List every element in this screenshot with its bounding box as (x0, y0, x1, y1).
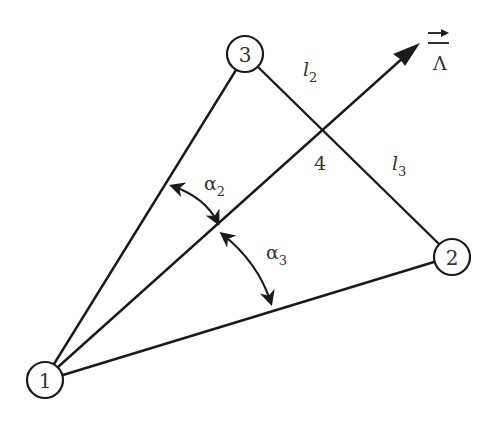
alpha3-main: α (266, 241, 279, 263)
lambda-vector (58, 43, 420, 367)
edge-1-2 (63, 262, 434, 375)
vector-label: Λ (428, 29, 449, 74)
angle-label-alpha3: α3 (266, 241, 287, 268)
l3-sub: 3 (398, 164, 406, 179)
alpha2-sub: 2 (217, 184, 225, 199)
node-3-label: 3 (239, 43, 252, 67)
edge-1-3 (54, 70, 236, 364)
node-2: 2 (434, 239, 470, 275)
segment-label-l3: l3 (392, 152, 406, 179)
lambda-symbol: Λ (432, 52, 447, 74)
intersection-label: 4 (314, 152, 326, 174)
l2-sub: 2 (309, 70, 317, 85)
alpha2-main: α (204, 172, 217, 194)
overarrow-icon (428, 29, 449, 43)
segment-label-l2: l2 (303, 58, 317, 85)
node-3: 3 (227, 36, 263, 72)
node-1: 1 (27, 362, 63, 398)
edge-3-2 (258, 67, 439, 244)
angle-label-alpha2: α2 (204, 172, 225, 199)
alpha3-arc (222, 234, 271, 303)
node-1-label: 1 (39, 369, 52, 393)
alpha3-sub: 3 (279, 253, 287, 268)
node-2-label: 2 (446, 246, 459, 270)
lambda-vector-shaft (58, 57, 404, 367)
triangle-vector-diagram: 1 2 3 4 l2 l3 α2 α3 Λ (0, 0, 499, 421)
